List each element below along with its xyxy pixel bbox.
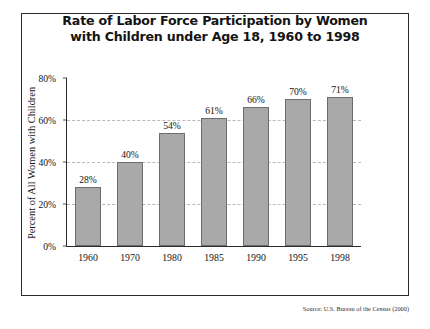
x-tick-label: 1980: [151, 252, 193, 263]
bar-slot[interactable]: 54%: [159, 78, 185, 246]
bar[interactable]: [201, 118, 227, 246]
bar-slot[interactable]: 28%: [75, 78, 101, 246]
y-axis-ticks: 0%20%40%60%80%: [12, 52, 62, 321]
chart-title: Rate of Labor Force Participation by Wom…: [0, 13, 430, 44]
bar-value-label: 40%: [111, 149, 149, 160]
x-tick-label: 1998: [319, 252, 361, 263]
x-tick-label: 1960: [67, 252, 109, 263]
bar[interactable]: [285, 99, 311, 246]
bar-slot[interactable]: 40%: [117, 78, 143, 246]
y-tick-label: 0%: [43, 241, 56, 252]
bar-series: 28%40%54%61%66%70%71%: [67, 78, 361, 246]
bar-value-label: 70%: [279, 86, 317, 97]
bar-slot[interactable]: 66%: [243, 78, 269, 246]
bar-value-label: 61%: [195, 105, 233, 116]
bar-slot[interactable]: 71%: [327, 78, 353, 246]
bar-slot[interactable]: 70%: [285, 78, 311, 246]
y-tick-label: 40%: [38, 157, 56, 168]
bar[interactable]: [243, 107, 269, 246]
y-tick-label: 60%: [38, 115, 56, 126]
bar-value-label: 28%: [69, 174, 107, 185]
plot-wrapper: Percent of All Women with Children 0%20%…: [12, 52, 420, 321]
bar-value-label: 71%: [321, 84, 359, 95]
source-note: Source: U.S. Bureau of the Census (2000): [303, 305, 409, 312]
x-axis-line: [66, 246, 361, 247]
bar-value-label: 54%: [153, 120, 191, 131]
bar-value-label: 66%: [237, 94, 275, 105]
chart-title-line-1: Rate of Labor Force Participation by Wom…: [0, 13, 430, 29]
bar[interactable]: [327, 97, 353, 246]
x-tick-label: 1970: [109, 252, 151, 263]
bar[interactable]: [159, 133, 185, 246]
y-tick-label: 20%: [38, 199, 56, 210]
x-axis-ticks: 1960197019801985199019951998: [67, 252, 361, 268]
y-tick-label: 80%: [38, 73, 56, 84]
bar[interactable]: [117, 162, 143, 246]
bar-slot[interactable]: 61%: [201, 78, 227, 246]
x-tick-label: 1995: [277, 252, 319, 263]
x-tick-label: 1990: [235, 252, 277, 263]
chart-title-line-2: with Children under Age 18, 1960 to 1998: [0, 29, 430, 45]
x-tick-label: 1985: [193, 252, 235, 263]
bar[interactable]: [75, 187, 101, 246]
